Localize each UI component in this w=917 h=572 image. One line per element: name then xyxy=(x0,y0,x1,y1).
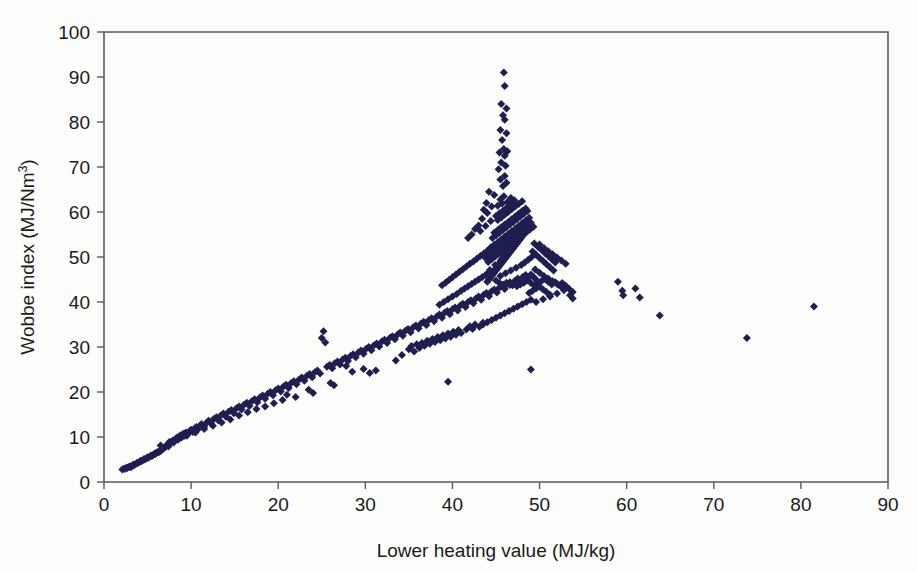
y-tick-label: 0 xyxy=(79,472,90,493)
x-axis-title: Lower heating value (MJ/kg) xyxy=(377,540,616,561)
x-tick-label: 20 xyxy=(268,494,289,515)
y-tick-label: 30 xyxy=(69,337,90,358)
y-tick-label: 90 xyxy=(69,67,90,88)
y-tick-label: 60 xyxy=(69,202,90,223)
x-tick-label: 40 xyxy=(442,494,463,515)
y-tick-label: 10 xyxy=(69,427,90,448)
x-tick-label: 10 xyxy=(181,494,202,515)
x-tick-label: 90 xyxy=(877,494,898,515)
y-tick-label: 80 xyxy=(69,112,90,133)
y-tick-label: 70 xyxy=(69,157,90,178)
figure-container: 0102030405060708090 01020304050607080901… xyxy=(0,0,917,572)
x-tick-label: 70 xyxy=(703,494,724,515)
x-tick-label: 80 xyxy=(790,494,811,515)
plot-background xyxy=(0,0,917,572)
x-tick-label: 60 xyxy=(616,494,637,515)
y-tick-label: 50 xyxy=(69,247,90,268)
x-tick-label: 50 xyxy=(529,494,550,515)
y-tick-label: 40 xyxy=(69,292,90,313)
y-axis-title: Wobbe index (MJ/Nm3) xyxy=(16,159,38,354)
y-tick-label: 20 xyxy=(69,382,90,403)
y-tick-label: 100 xyxy=(58,22,90,43)
x-tick-label: 30 xyxy=(355,494,376,515)
scatter-plot-svg: 0102030405060708090 01020304050607080901… xyxy=(0,0,917,572)
x-tick-label: 0 xyxy=(99,494,110,515)
